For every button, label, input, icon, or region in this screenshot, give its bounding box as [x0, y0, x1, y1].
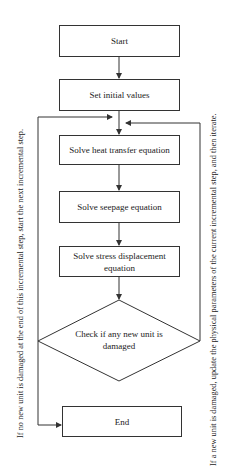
check-label: Check if any new unit is damaged	[75, 329, 163, 351]
start-node: Start	[59, 25, 180, 57]
seepage-node: Solve seepage equation	[59, 191, 180, 223]
right-annotation: If a new unit is damaged, update the phy…	[209, 113, 218, 466]
damage-check-decision: Check if any new unit is damaged	[64, 328, 174, 352]
set-initial-values-node: Set initial values	[59, 79, 180, 111]
end-label: End	[115, 416, 130, 428]
heat-transfer-node: Solve heat transfer equation	[59, 135, 180, 165]
start-label: Start	[111, 35, 128, 47]
connector-lines	[0, 0, 232, 470]
left-annotation: If no new unit is damaged at the end of …	[16, 129, 25, 438]
heat-label: Solve heat transfer equation	[69, 144, 170, 156]
end-node: End	[62, 406, 182, 437]
init-label: Set initial values	[90, 89, 150, 101]
stress-label: Solve stress displacement equation	[64, 250, 175, 274]
seepage-label: Solve seepage equation	[77, 201, 161, 213]
stress-displacement-node: Solve stress displacement equation	[59, 246, 180, 277]
